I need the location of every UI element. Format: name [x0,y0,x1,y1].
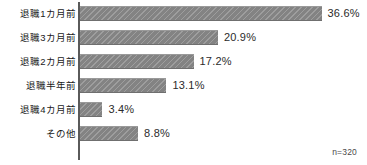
bar-group: 8.8% [80,126,170,141]
bar-row: 退職1カ月前 36.6% [0,4,367,28]
category-label: その他 [2,127,76,140]
bar-row: 退職3カ月前 20.9% [0,28,367,52]
bar-group: 36.6% [80,6,360,21]
category-label: 退職3カ月前 [2,31,76,44]
bar-value-label: 17.2% [200,54,232,69]
bar-group: 17.2% [80,54,232,69]
bar-mark [80,78,166,93]
bar-value-label: 20.9% [224,30,256,45]
bar-chart: 退職1カ月前 36.6% 退職3カ月前 20.9% 退職2カ月前 17.2% 退… [0,0,367,165]
bar-row: 退職半年前 13.1% [0,76,367,100]
category-label: 退職2カ月前 [2,55,76,68]
bar-value-label: 8.8% [144,126,170,141]
bar-mark [80,30,218,45]
bar-row: その他 8.8% [0,124,367,148]
bar-value-label: 3.4% [108,102,134,117]
bar-row: 退職4カ月前 3.4% [0,100,367,124]
category-label: 退職半年前 [2,79,76,92]
bar-value-label: 36.6% [328,6,360,21]
bar-row: 退職2カ月前 17.2% [0,52,367,76]
plot-area: 退職1カ月前 36.6% 退職3カ月前 20.9% 退職2カ月前 17.2% 退… [0,4,367,148]
bar-group: 3.4% [80,102,134,117]
category-label: 退職4カ月前 [2,103,76,116]
bar-mark [80,6,322,21]
bar-mark [80,126,138,141]
bar-mark [80,54,194,69]
bar-value-label: 13.1% [172,78,204,93]
sample-size-note: n=320 [332,147,357,157]
bar-mark [80,102,102,117]
category-label: 退職1カ月前 [2,7,76,20]
bar-group: 20.9% [80,30,256,45]
bar-group: 13.1% [80,78,205,93]
